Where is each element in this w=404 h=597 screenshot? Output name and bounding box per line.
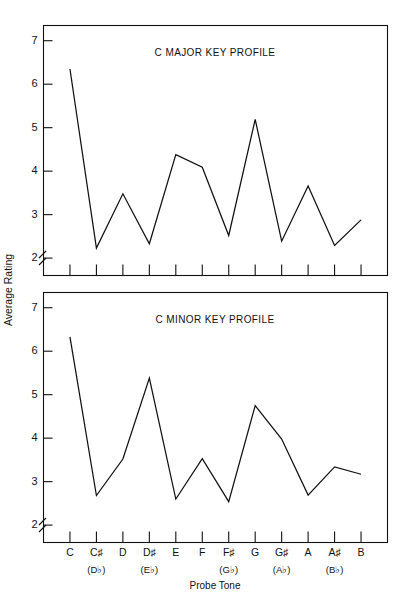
panel-major-y-tick-labels: 234567	[31, 34, 37, 263]
x-axis-title: Probe Tone	[190, 580, 241, 591]
x-tick-enharmonic-label: (A♭)	[273, 564, 291, 575]
y-tick-label: 2	[31, 251, 37, 263]
x-tick-enharmonic-label: (E♭)	[141, 564, 159, 575]
y-tick-label: 2	[31, 518, 37, 530]
x-tick-label: G♯	[275, 546, 288, 558]
x-tick-label: G	[251, 546, 259, 558]
x-axis-enharmonic-labels: (D♭)(E♭)(G♭)(A♭)(B♭)	[87, 564, 343, 575]
y-tick-label: 7	[31, 301, 37, 313]
panel-minor-y-ticks	[44, 308, 53, 525]
panel-minor-title: C MINOR KEY PROFILE	[155, 314, 274, 325]
y-tick-label: 6	[31, 77, 37, 89]
x-tick-label: E	[172, 546, 179, 558]
x-tick-label: D	[119, 546, 127, 558]
y-tick-label: 3	[31, 475, 37, 487]
panel-major: 234567 C MAJOR KEY PROFILE	[31, 26, 387, 276]
panel-major-y-ticks	[44, 41, 53, 258]
x-tick-label: F♯	[223, 546, 235, 558]
y-tick-label: 4	[31, 164, 37, 176]
x-tick-label: A	[305, 546, 312, 558]
x-tick-label: C♯	[90, 546, 103, 558]
chart-svg: 234567 C MAJOR KEY PROFILE 234567 C MINO…	[0, 0, 404, 597]
x-axis-tick-labels: CC♯DD♯EFF♯GG♯AA♯B	[66, 546, 364, 558]
x-tick-label: D♯	[143, 546, 156, 558]
panel-major-data-line	[70, 69, 361, 248]
y-tick-label: 5	[31, 388, 37, 400]
panel-major-x-ticks	[70, 265, 361, 276]
y-tick-label: 5	[31, 121, 37, 133]
x-tick-enharmonic-label: (G♭)	[219, 564, 238, 575]
panel-minor-x-ticks	[70, 532, 361, 543]
panel-minor-data-line	[70, 337, 361, 502]
y-axis-title: Average Rating	[2, 254, 14, 326]
panel-minor-y-tick-labels: 234567	[31, 301, 37, 530]
x-tick-enharmonic-label: (D♭)	[87, 564, 105, 575]
x-tick-label: F	[199, 546, 205, 558]
x-tick-label: C	[66, 546, 74, 558]
panel-major-title: C MAJOR KEY PROFILE	[155, 47, 276, 58]
y-tick-label: 3	[31, 208, 37, 220]
key-profile-figure: 234567 C MAJOR KEY PROFILE 234567 C MINO…	[0, 0, 404, 597]
x-tick-enharmonic-label: (B♭)	[326, 564, 344, 575]
panel-minor-frame	[44, 293, 388, 543]
y-tick-label: 6	[31, 344, 37, 356]
y-tick-label: 4	[31, 431, 37, 443]
x-tick-label: A♯	[328, 546, 340, 558]
x-tick-label: B	[358, 546, 365, 558]
panel-minor: 234567 C MINOR KEY PROFILE	[31, 293, 387, 543]
y-tick-label: 7	[31, 34, 37, 46]
